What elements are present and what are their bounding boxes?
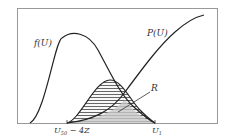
x-right-label: U1 bbox=[152, 126, 162, 136]
f-u-label: f(U) bbox=[33, 38, 52, 48]
x-left-label: U50 − 4Z bbox=[54, 126, 90, 136]
region-r-label: R bbox=[150, 83, 158, 93]
stress-strength-diagram: f(U) P(U) R U50 − 4Z U1 bbox=[0, 0, 230, 140]
p-u-label: P(U) bbox=[146, 28, 168, 38]
